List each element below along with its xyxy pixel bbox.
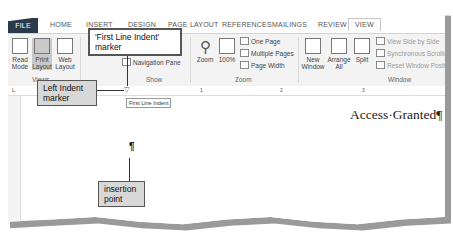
divider	[298, 37, 299, 83]
window-group-label: Window	[388, 76, 411, 83]
zoom-100-button[interactable]: 100%	[218, 38, 236, 63]
tab-insert[interactable]: INSERT	[86, 21, 113, 28]
callout-arrow	[96, 90, 124, 91]
new-window-button[interactable]: New Window	[301, 38, 325, 70]
tab-file[interactable]: FILE	[8, 18, 38, 33]
left-indent-callout: Left Indent marker	[37, 80, 97, 106]
page-100-icon	[219, 38, 235, 54]
view-side-by-side-button[interactable]: View Side by Side	[376, 37, 439, 45]
one-page-button[interactable]: One Page	[240, 37, 280, 45]
insertion-point-callout: insertion point	[98, 181, 145, 207]
first-line-indent-marker-icon[interactable]: ▽	[124, 86, 129, 94]
print-layout-button[interactable]: Print Layout	[32, 38, 52, 70]
multiple-pages-button[interactable]: Multiple Pages	[240, 49, 294, 57]
word-window: FILE HOME INSERT DESIGN PAGE LAYOUT REFE…	[8, 0, 445, 236]
first-line-indent-callout: 'First Line Indent' marker	[88, 28, 182, 56]
side-by-side-icon	[376, 37, 385, 45]
tab-selector-icon[interactable]: L	[12, 87, 15, 93]
callout-arrow	[127, 55, 128, 86]
one-page-icon	[240, 37, 249, 45]
show-group-label: Show	[146, 76, 162, 83]
tab-home[interactable]: HOME	[50, 21, 72, 28]
read-mode-button[interactable]: Read Mode	[10, 38, 30, 70]
insertion-point: ¶	[129, 141, 135, 152]
tab-references[interactable]: REFERENCES	[222, 21, 272, 28]
reset-window-position-button[interactable]: Reset Window Position	[376, 61, 445, 69]
ruler-number: 2	[280, 87, 283, 93]
tab-review[interactable]: REVIEW	[318, 21, 347, 28]
new-window-icon	[305, 38, 321, 54]
tab-page-layout[interactable]: PAGE LAYOUT	[168, 21, 219, 28]
multiple-pages-icon	[240, 49, 249, 57]
first-line-indent-tooltip: First Line Indent	[126, 98, 171, 108]
tab-mailings[interactable]: MAILINGS	[272, 21, 307, 28]
ribbon-view: Read Mode Print Layout Web Layout Views …	[8, 33, 445, 87]
document-text: Access·Granted¶	[350, 107, 442, 123]
reset-window-icon	[376, 61, 385, 69]
tab-design[interactable]: DESIGN	[128, 21, 156, 28]
divider	[80, 37, 81, 83]
split-button[interactable]: Split	[353, 38, 371, 63]
page-width-button[interactable]: Page Width	[240, 61, 285, 69]
page-width-icon	[240, 61, 249, 69]
book-icon	[12, 38, 28, 54]
web-layout-button[interactable]: Web Layout	[55, 38, 75, 70]
arrange-all-button[interactable]: Arrange All	[327, 38, 351, 70]
ruler-number: 1	[200, 87, 203, 93]
ruler-number: 3	[362, 87, 365, 93]
divider	[190, 37, 191, 83]
split-icon	[354, 38, 370, 54]
zoom-group-label: Zoom	[235, 76, 252, 83]
callout-arrow	[129, 158, 130, 183]
vertical-ruler	[8, 96, 21, 236]
arrange-all-icon	[331, 38, 347, 54]
globe-page-icon	[57, 38, 73, 54]
tab-view[interactable]: VIEW	[348, 18, 381, 31]
magnifier-icon: ⚲	[194, 38, 216, 56]
page-icon	[34, 38, 50, 54]
synchronous-scrolling-button[interactable]: Synchronous Scrolling	[376, 49, 445, 57]
navigation-pane-checkbox[interactable]: Navigation Pane	[122, 58, 181, 66]
ribbon-tabs: FILE HOME INSERT DESIGN PAGE LAYOUT REFE…	[8, 18, 445, 33]
zoom-button[interactable]: ⚲ Zoom	[194, 38, 216, 63]
sync-scroll-icon	[376, 49, 385, 57]
